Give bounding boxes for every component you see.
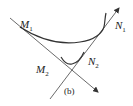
figure-caption: (b) [64,87,75,96]
tangent-line-n [50,8,119,99]
label-m1: M1 [20,19,33,33]
label-m2: M2 [36,64,49,78]
diagram-figure-b: M1 N1 M2 N2 (b) [0,0,133,106]
label-n2: N2 [88,56,99,70]
curve-m2-n2 [61,52,84,64]
label-n1: N1 [115,20,126,34]
